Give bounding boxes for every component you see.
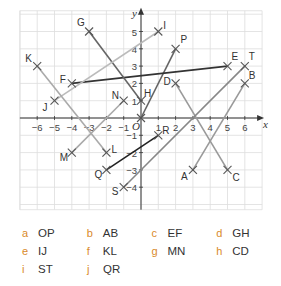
y-tick-label: 1 [132,96,137,107]
x-tick-label: −2 [101,122,112,133]
question-item: eIJ [22,245,87,257]
question-item: jQR [87,263,152,275]
point-label: P [181,34,188,45]
question-item: fKL [87,245,152,257]
point-label: D [164,76,171,87]
question-letter: f [87,245,103,257]
point-label: N [112,90,119,101]
point-label: B [249,70,256,81]
question-segment: CD [232,245,249,257]
point-label: J [43,102,48,113]
question-segment: AB [103,227,118,239]
point-label: T [249,51,255,62]
question-row: aOPbABcEFdGH [22,224,281,242]
question-item: bAB [87,227,152,239]
question-segment: OP [38,227,55,239]
question-segment: EF [168,227,183,239]
question-item: dGH [216,227,281,239]
question-letter: j [87,263,103,275]
x-axis-label: x [262,118,268,130]
x-tick-label: −5 [49,122,60,133]
question-segment: ST [38,263,53,275]
x-tick-label: 2 [173,122,178,133]
question-letter: e [22,245,38,257]
question-segment: GH [232,227,249,239]
y-tick-label: 2 [132,78,137,89]
question-item: aOP [22,227,87,239]
question-letter: b [87,227,103,239]
point-label: S [112,186,119,197]
question-letter: d [216,227,232,239]
origin-label: O [132,120,140,132]
point-label: M [60,152,68,163]
question-item: hCD [216,245,281,257]
question-letter: h [216,245,232,257]
x-tick-label: 3 [190,122,195,133]
question-segment: KL [103,245,117,257]
question-letter: c [152,227,168,239]
coordinate-grid: xy−6−5−4−3−2−1123456−4−3−2−112345OABCDEF… [0,0,281,220]
point-label: K [25,53,32,64]
question-item: iST [22,263,87,275]
x-tick-label: 1 [156,122,161,133]
x-tick-label: −6 [32,122,43,133]
question-row: iSTjQR [22,260,281,278]
point-label: Q [94,169,102,180]
point-label: G [77,17,85,28]
point-label: F [60,74,66,85]
point-label: R [162,125,169,136]
question-letter: g [152,245,168,257]
x-tick-label: 6 [242,122,247,133]
y-tick-label: −3 [126,165,137,176]
y-tick-label: 3 [132,61,137,72]
x-tick-label: 4 [208,122,213,133]
point-label: H [144,88,151,99]
question-list: aOPbABcEFdGHeIJfKLgMNhCDiSTjQR [22,224,281,278]
question-letter: a [22,227,38,239]
y-tick-label: 5 [132,27,137,38]
question-letter: i [22,263,38,275]
question-segment: QR [103,263,120,275]
y-axis-label: y [131,7,137,19]
question-item: gMN [152,245,217,257]
segment-ef [72,66,228,83]
point-label: I [163,20,166,31]
point-label: A [181,171,188,182]
y-axis-arrow-icon [138,8,144,15]
point-label: E [232,51,239,62]
question-item: cEF [152,227,217,239]
point-label: L [111,144,117,155]
question-row: eIJfKLgMNhCD [22,242,281,260]
point-label: C [233,172,240,183]
x-tick-label: −4 [66,122,77,133]
question-segment: IJ [38,245,47,257]
x-tick-label: 5 [225,122,230,133]
question-segment: MN [168,245,186,257]
